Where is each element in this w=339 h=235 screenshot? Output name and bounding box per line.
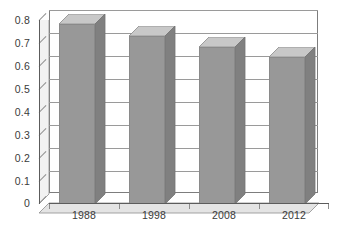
bar-side-face-1988 [95,14,105,204]
bar-chart: 0.8 0.7 0.6 0.5 0.4 0.3 0.2 0.1 0 1988 1… [0,0,339,235]
bar-side-face-1998 [165,26,175,204]
y-tick-label-0.5: 0.5 [4,84,30,95]
y-axis-line [39,20,40,204]
bar-top-face-1998 [129,26,165,36]
bar-top-face-1988 [59,14,95,24]
bar-top-face-2012 [269,47,305,57]
bar-front-face-2008 [199,47,235,204]
x-tick-label-2008: 2008 [196,210,252,221]
y-tick-label-0: 0 [4,198,30,209]
x-tick-mark-2 [189,204,190,209]
y-tick-label-0.6: 0.6 [4,61,30,72]
bar-front-face-2012 [269,57,305,204]
x-tick-label-2012: 2012 [266,210,322,221]
x-tick-mark-4 [328,204,329,209]
bar-1988[interactable] [59,0,95,204]
y-tick-label-0.3: 0.3 [4,130,30,141]
x-tick-mark-0 [49,204,50,209]
bar-top-face-2008 [199,37,235,47]
bar-2012[interactable] [269,0,305,204]
x-tick-mark-1 [119,204,120,209]
bar-1998[interactable] [129,0,165,204]
y-tick-label-0.7: 0.7 [4,38,30,49]
y-tick-label-0.1: 0.1 [4,176,30,187]
x-tick-mark-3 [259,204,260,209]
plot-area [0,0,339,235]
bar-front-face-1998 [129,36,165,204]
bar-2008[interactable] [199,0,235,204]
bar-side-face-2012 [305,47,315,204]
x-tick-label-1998: 1998 [126,210,182,221]
y-tick-label-0.2: 0.2 [4,153,30,164]
y-tick-label-0.4: 0.4 [4,107,30,118]
bar-side-face-2008 [235,37,245,204]
x-tick-label-1988: 1988 [56,210,112,221]
bar-front-face-1988 [59,24,95,204]
y-tick-label-0.8: 0.8 [4,15,30,26]
y-axis-labels: 0.8 0.7 0.6 0.5 0.4 0.3 0.2 0.1 0 [0,0,30,235]
